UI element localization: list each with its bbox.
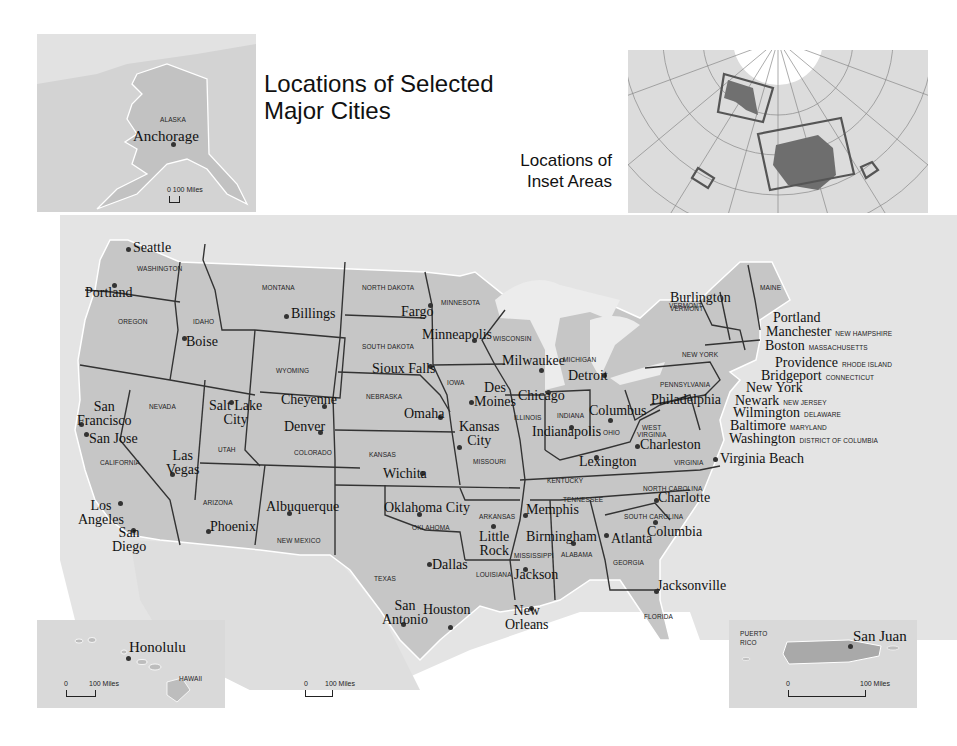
state-label-michigan: MICHIGAN: [563, 356, 596, 363]
city-label-albuquerque: Albuquerque: [266, 500, 339, 514]
alaska-scale-bar: [169, 196, 180, 203]
city-label-salt-lake-city: Salt LakeCity: [209, 399, 262, 427]
state-label-virginia: VIRGINIA: [674, 459, 703, 466]
city-label-san-diego: SanDiego: [112, 526, 146, 554]
inset-locator-map: [628, 50, 928, 213]
state-label-utah: UTAH: [218, 446, 236, 453]
state-label-texas: TEXAS: [374, 575, 396, 582]
city-label-fargo: Fargo: [401, 305, 433, 319]
main-scale-zero: 0: [304, 680, 308, 687]
state-label-florida: FLORIDA: [644, 613, 673, 620]
state-label-minnesota: MINNESOTA: [441, 299, 480, 306]
locator-graticule: [628, 50, 928, 213]
city-label-chicago: Chicago: [518, 389, 565, 403]
state-label-indiana: INDIANA: [557, 412, 584, 419]
state-label-georgia: GEORGIA: [613, 559, 644, 566]
city-label-phoenix: Phoenix: [210, 520, 256, 534]
city-label-oklahoma-city: Oklahoma City: [384, 501, 470, 515]
city-label-jackson: Jackson: [514, 568, 558, 582]
city-label-memphis: Memphis: [526, 503, 579, 517]
inset-locator-title-line-2: Inset Areas: [508, 171, 612, 192]
main-scale-label: 100 Miles: [325, 680, 355, 687]
city-label-cheyenne: Cheyenne: [281, 393, 337, 407]
inset-locator-title: Locations of Inset Areas: [508, 150, 612, 192]
city-label-honolulu: Honolulu: [129, 640, 186, 654]
city-marker-virginia-beach: [713, 457, 718, 462]
puerto-rico-state-label-2: RICO: [740, 639, 757, 646]
city-label-san-juan: San Juan: [853, 629, 907, 643]
state-label-california: CALIFORNIA: [100, 459, 140, 466]
state-label-alabama: ALABAMA: [561, 551, 592, 558]
city-label-las-vegas: LasVegas: [166, 449, 199, 477]
city-callout-burlington: BurlingtonVERMONT: [670, 291, 731, 312]
city-label-seattle: Seattle: [133, 241, 171, 255]
city-label-charleston: Charleston: [640, 438, 701, 452]
city-label-kansas-city: KansasCity: [459, 420, 499, 448]
city-label-san-jose: San Jose: [89, 432, 138, 446]
city-label-virginia-beach: Virginia Beach: [720, 452, 804, 466]
city-label-washington: Washington: [729, 431, 796, 446]
state-label-montana: MONTANA: [262, 284, 295, 291]
state-label-missouri: MISSOURI: [473, 458, 506, 465]
hawaii-scale-zero: 0: [64, 680, 68, 687]
state-label-north-dakota: NORTH DAKOTA: [362, 284, 414, 291]
city-label-new-orleans: NewOrleans: [505, 604, 549, 632]
city-marker-san-juan: [848, 644, 853, 649]
city-marker-milwaukee: [539, 368, 544, 373]
alaska-state-label: ALASKA: [160, 116, 186, 123]
city-label-omaha: Omaha: [404, 407, 444, 421]
state-label-arkansas: ARKANSAS: [479, 513, 515, 520]
map-title: Locations of Selected Major Cities: [264, 70, 494, 124]
alaska-shape: [37, 34, 256, 212]
state-label-wyoming: WYOMING: [276, 367, 309, 374]
city-marker-atlanta: [604, 533, 609, 538]
state-label-new-york: NEW YORK: [682, 351, 718, 358]
puerto-rico-scale-zero: 0: [786, 680, 790, 687]
city-label-anchorage: Anchorage: [133, 129, 199, 143]
city-marker-honolulu: [126, 656, 131, 661]
city-label-indianapolis: Indianapolis: [532, 425, 601, 439]
city-marker-columbus: [608, 418, 613, 423]
city-label-sioux-falls: Sioux Falls: [372, 362, 435, 376]
city-label-san-francisco: SanFrancisco: [77, 400, 131, 428]
city-label-boise: Boise: [186, 335, 218, 349]
hawaii-scale-bar: [66, 690, 96, 697]
city-label-boston: Boston: [765, 338, 805, 353]
state-label-kentucky: KENTUCKY: [547, 477, 583, 484]
puerto-rico-scale-bar: [788, 690, 866, 697]
state-label-ohio: OHIO: [603, 429, 620, 436]
state-label-maine: MAINE: [760, 284, 781, 291]
state-label-colorado: COLORADO: [294, 449, 332, 456]
state-label-nevada: NEVADA: [149, 403, 176, 410]
city-label-burlington: Burlington: [670, 291, 731, 305]
state-label-washington: WASHINGTON: [137, 265, 182, 272]
state-label-kansas: KANSAS: [369, 451, 396, 458]
state-label-arizona: ARIZONA: [203, 499, 233, 506]
state-label-iowa: IOWA: [447, 379, 465, 386]
city-label-portland: Portland: [85, 286, 132, 300]
state-label-wisconsin: WISCONSIN: [493, 335, 531, 342]
city-label-wichita: Wichita: [383, 467, 427, 481]
state-label-connecticut: CONNECTICUT: [826, 374, 874, 381]
main-scale-bar: [305, 690, 333, 697]
puerto-rico-state-label-1: PUERTO: [740, 630, 767, 637]
state-label-pennsylvania: PENNSYLVANIA: [660, 381, 710, 388]
alaska-scale-label: 0 100 Miles: [167, 186, 203, 193]
city-label-little-rock: LittleRock: [479, 530, 509, 558]
state-label-louisiana: LOUISIANA: [476, 571, 512, 578]
state-label-south-carolina: SOUTH CAROLINA: [624, 513, 683, 520]
state-label-south-dakota: SOUTH DAKOTA: [362, 343, 414, 350]
city-callout-washington: WashingtonDISTRICT OF COLUMBIA: [729, 429, 878, 447]
city-label-des-moines: DesMoines: [474, 381, 516, 409]
state-label-new-mexico: NEW MEXICO: [277, 537, 321, 544]
city-label-denver: Denver: [284, 420, 325, 434]
state-label-west-virginia: WESTVIRGINIA: [637, 424, 666, 438]
city-label-houston: Houston: [423, 603, 470, 617]
city-marker-anchorage: [171, 142, 176, 147]
map-title-line-2: Major Cities: [264, 97, 494, 124]
city-label-birmingham: Birmingham: [526, 530, 597, 544]
inset-locator-title-line-1: Locations of: [508, 150, 612, 171]
state-label-idaho: IDAHO: [193, 318, 214, 325]
state-label-district-of-columbia: DISTRICT OF COLUMBIA: [800, 437, 878, 444]
city-marker-seattle: [126, 247, 131, 252]
